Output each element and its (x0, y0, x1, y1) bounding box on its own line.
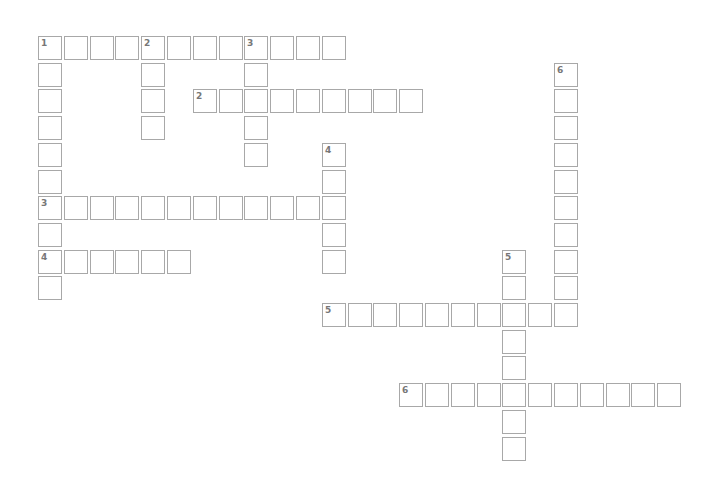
crossword-cell[interactable] (296, 196, 320, 220)
crossword-cell[interactable] (141, 63, 165, 87)
crossword-cell[interactable] (115, 36, 139, 60)
crossword-cell[interactable] (477, 383, 501, 407)
crossword-cell[interactable]: 5 (322, 303, 346, 327)
crossword-cell[interactable]: 4 (322, 143, 346, 167)
crossword-cell[interactable] (141, 196, 165, 220)
crossword-cell[interactable] (115, 196, 139, 220)
crossword-cell[interactable] (399, 303, 423, 327)
crossword-cell[interactable] (38, 143, 62, 167)
crossword-cell[interactable] (373, 303, 397, 327)
clue-number: 1 (41, 38, 47, 48)
crossword-cell[interactable] (193, 36, 217, 60)
crossword-cell[interactable] (38, 170, 62, 194)
crossword-cell[interactable] (580, 383, 604, 407)
crossword-cell[interactable]: 1 (38, 36, 62, 60)
crossword-cell[interactable] (554, 303, 578, 327)
crossword-cell[interactable] (606, 383, 630, 407)
crossword-grid: 12334264556 (0, 0, 712, 487)
crossword-cell[interactable] (502, 276, 526, 300)
crossword-cell[interactable] (244, 143, 268, 167)
crossword-cell[interactable]: 3 (244, 36, 268, 60)
crossword-cell[interactable] (270, 196, 294, 220)
crossword-cell[interactable] (219, 196, 243, 220)
crossword-cell[interactable]: 2 (141, 36, 165, 60)
crossword-cell[interactable] (373, 89, 397, 113)
crossword-cell[interactable] (322, 170, 346, 194)
crossword-cell[interactable] (322, 196, 346, 220)
crossword-cell[interactable] (528, 303, 552, 327)
clue-number: 2 (144, 38, 150, 48)
crossword-cell[interactable] (502, 383, 526, 407)
crossword-cell[interactable] (141, 250, 165, 274)
crossword-cell[interactable] (502, 303, 526, 327)
crossword-cell[interactable] (554, 250, 578, 274)
crossword-cell[interactable] (64, 36, 88, 60)
crossword-cell[interactable] (38, 223, 62, 247)
crossword-cell[interactable]: 6 (399, 383, 423, 407)
crossword-cell[interactable] (502, 410, 526, 434)
crossword-cell[interactable] (451, 383, 475, 407)
crossword-cell[interactable] (554, 170, 578, 194)
crossword-cell[interactable] (502, 356, 526, 380)
crossword-cell[interactable] (296, 89, 320, 113)
crossword-cell[interactable]: 4 (38, 250, 62, 274)
crossword-cell[interactable] (348, 303, 372, 327)
clue-number: 5 (505, 252, 511, 262)
crossword-cell[interactable] (90, 196, 114, 220)
crossword-cell[interactable] (425, 303, 449, 327)
crossword-cell[interactable] (90, 250, 114, 274)
crossword-cell[interactable] (167, 250, 191, 274)
crossword-cell[interactable] (141, 89, 165, 113)
crossword-cell[interactable] (219, 89, 243, 113)
clue-number: 3 (41, 198, 47, 208)
crossword-cell[interactable] (244, 196, 268, 220)
crossword-cell[interactable] (322, 250, 346, 274)
crossword-cell[interactable] (451, 303, 475, 327)
crossword-cell[interactable] (554, 276, 578, 300)
crossword-cell[interactable] (554, 223, 578, 247)
crossword-cell[interactable] (554, 383, 578, 407)
crossword-cell[interactable] (115, 250, 139, 274)
crossword-cell[interactable] (477, 303, 501, 327)
clue-number: 3 (247, 38, 253, 48)
crossword-cell[interactable] (193, 196, 217, 220)
crossword-cell[interactable] (657, 383, 681, 407)
crossword-cell[interactable] (38, 63, 62, 87)
crossword-cell[interactable] (219, 36, 243, 60)
crossword-cell[interactable] (90, 36, 114, 60)
crossword-cell[interactable] (244, 63, 268, 87)
crossword-cell[interactable] (64, 250, 88, 274)
crossword-cell[interactable] (38, 116, 62, 140)
crossword-cell[interactable] (244, 116, 268, 140)
crossword-cell[interactable] (322, 89, 346, 113)
crossword-cell[interactable] (554, 143, 578, 167)
crossword-cell[interactable] (348, 89, 372, 113)
crossword-cell[interactable] (399, 89, 423, 113)
crossword-cell[interactable] (554, 116, 578, 140)
crossword-cell[interactable] (38, 276, 62, 300)
crossword-cell[interactable]: 3 (38, 196, 62, 220)
crossword-cell[interactable] (270, 89, 294, 113)
crossword-cell[interactable] (64, 196, 88, 220)
crossword-cell[interactable] (554, 196, 578, 220)
crossword-cell[interactable] (38, 89, 62, 113)
crossword-cell[interactable] (322, 223, 346, 247)
crossword-cell[interactable] (502, 330, 526, 354)
clue-number: 5 (325, 305, 331, 315)
crossword-cell[interactable] (167, 36, 191, 60)
crossword-cell[interactable] (141, 116, 165, 140)
crossword-cell[interactable]: 6 (554, 63, 578, 87)
crossword-cell[interactable] (425, 383, 449, 407)
crossword-cell[interactable] (167, 196, 191, 220)
crossword-cell[interactable]: 2 (193, 89, 217, 113)
crossword-cell[interactable] (554, 89, 578, 113)
crossword-cell[interactable]: 5 (502, 250, 526, 274)
crossword-cell[interactable] (244, 89, 268, 113)
crossword-cell[interactable] (631, 383, 655, 407)
crossword-cell[interactable] (528, 383, 552, 407)
crossword-cell[interactable] (322, 36, 346, 60)
crossword-cell[interactable] (296, 36, 320, 60)
clue-number: 6 (402, 385, 408, 395)
crossword-cell[interactable] (502, 437, 526, 461)
crossword-cell[interactable] (270, 36, 294, 60)
